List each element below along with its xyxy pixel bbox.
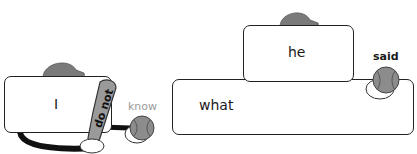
sentence-diagram: I what he — [0, 0, 417, 154]
baseball-icon — [130, 116, 154, 140]
ball-label-know: know — [128, 100, 157, 113]
baseball-icon-right — [373, 67, 399, 93]
ball-label-said: said — [373, 50, 399, 63]
foreground-art — [0, 0, 417, 154]
glove-hand-icon — [80, 139, 104, 153]
